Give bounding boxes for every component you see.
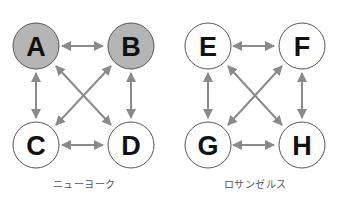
diagram-new-york: A B C D [13,23,154,168]
node-d: D [108,122,154,168]
node-e: E [185,23,231,69]
node-b: B [108,23,154,69]
caption-new-york: ニューヨーク [34,176,134,191]
svg-text:H: H [292,131,312,161]
svg-text:B: B [121,32,141,62]
svg-text:D: D [121,131,141,161]
svg-text:F: F [294,32,311,62]
diagram-los-angeles: E F G H [185,23,325,168]
svg-text:E: E [199,32,217,62]
node-a: A [13,23,59,69]
network-diagrams: A B C D E F [0,0,337,201]
node-f: F [279,23,325,69]
svg-text:A: A [26,32,46,62]
node-c: C [13,122,59,168]
svg-text:G: G [197,131,218,161]
node-g: G [185,122,231,168]
node-h: H [279,122,325,168]
svg-text:C: C [26,131,46,161]
caption-los-angeles: ロサンゼルス [205,176,305,191]
